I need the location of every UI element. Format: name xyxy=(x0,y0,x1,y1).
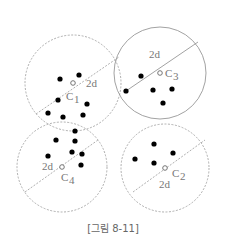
diameter-label: 2d xyxy=(159,178,171,190)
diameter-label: 2d xyxy=(86,77,98,89)
centroid-marker-icon xyxy=(163,166,168,171)
data-point xyxy=(79,151,84,156)
centroid-label-subscript: 3 xyxy=(173,70,179,82)
diameter-line xyxy=(126,42,198,91)
data-point xyxy=(150,87,155,92)
data-point xyxy=(76,72,81,77)
data-point xyxy=(45,153,50,158)
data-point xyxy=(151,141,156,146)
centroid-marker-icon xyxy=(158,71,163,76)
data-point xyxy=(53,137,58,142)
centroid-label-subscript: 4 xyxy=(69,174,75,186)
data-point xyxy=(78,162,83,167)
cluster-c3: C32d xyxy=(114,27,206,119)
diameter-label: 2d xyxy=(149,48,161,60)
clusters-group: C12dC32dC42dC22d xyxy=(17,27,209,212)
centroid-label: C xyxy=(165,67,172,79)
diameter-line xyxy=(36,57,119,114)
data-point xyxy=(55,97,60,102)
diameter-label: 2d xyxy=(42,160,54,172)
data-point xyxy=(123,88,128,93)
cluster-c2: C22d xyxy=(121,124,209,212)
data-point xyxy=(160,100,165,105)
data-point xyxy=(170,150,175,155)
data-point xyxy=(69,149,74,154)
centroid-marker-icon xyxy=(71,81,76,86)
centroid-label: C xyxy=(61,171,68,183)
data-point xyxy=(132,156,137,161)
cluster-c4: C42d xyxy=(17,122,107,212)
centroid-label: C xyxy=(66,90,73,102)
centroid-label-subscript: 1 xyxy=(74,93,80,105)
figure-caption: [그림 8-11] xyxy=(87,223,139,234)
data-point xyxy=(72,128,77,133)
data-point xyxy=(169,86,174,91)
centroid-label: C xyxy=(172,167,179,179)
data-point xyxy=(84,101,89,106)
data-point xyxy=(72,138,77,143)
data-point xyxy=(138,73,143,78)
centroid-label-subscript: 2 xyxy=(180,170,186,182)
data-point xyxy=(45,110,50,115)
data-point xyxy=(60,114,65,119)
data-point xyxy=(57,76,62,81)
cluster-diagram: C12dC32dC42dC22d [그림 8-11] xyxy=(0,0,226,238)
centroid-marker-icon xyxy=(60,165,65,170)
data-point xyxy=(151,160,156,165)
cluster-c1: C12d xyxy=(25,35,121,131)
data-point xyxy=(80,112,85,117)
